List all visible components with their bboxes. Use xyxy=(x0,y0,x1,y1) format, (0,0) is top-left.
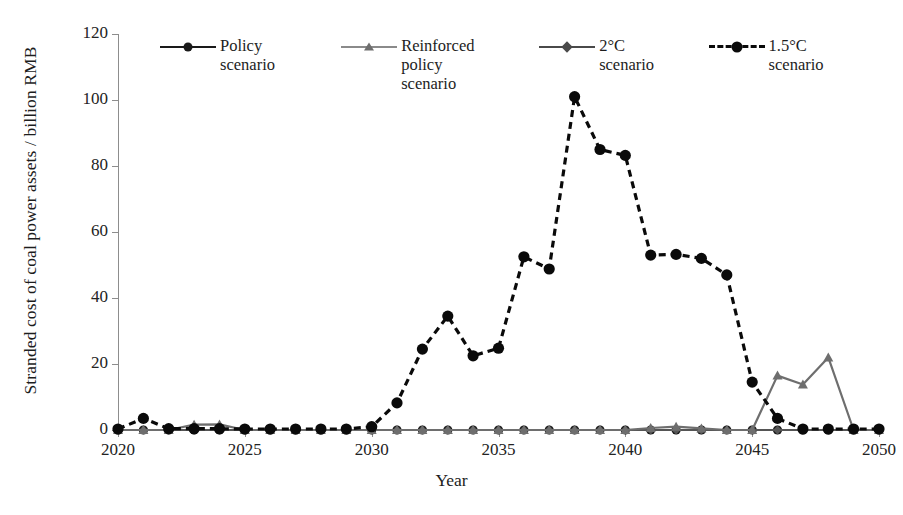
data-point-marker xyxy=(468,350,479,361)
data-point-marker xyxy=(848,423,859,434)
data-point-marker xyxy=(442,311,453,322)
series-reinforced-policy-scenario xyxy=(113,352,884,434)
data-point-marker xyxy=(265,423,276,434)
data-point-marker xyxy=(873,423,884,434)
data-point-marker xyxy=(189,423,200,434)
data-point-marker xyxy=(112,423,123,434)
data-point-marker xyxy=(823,352,833,361)
data-point-marker xyxy=(315,423,326,434)
data-point-marker xyxy=(341,423,352,434)
data-point-marker xyxy=(569,91,580,102)
data-point-marker xyxy=(620,150,631,161)
data-point-marker xyxy=(493,343,504,354)
data-point-marker xyxy=(773,371,783,380)
series-1-5-c-scenario xyxy=(112,91,884,435)
data-point-marker xyxy=(366,421,377,432)
data-point-marker xyxy=(417,344,428,355)
data-point-marker xyxy=(823,423,834,434)
data-point-marker xyxy=(544,263,555,274)
chart-plot-area xyxy=(0,0,903,515)
data-point-marker xyxy=(163,423,174,434)
data-point-marker xyxy=(290,423,301,434)
chart-figure: Stranded cost of coal power assets / bil… xyxy=(0,0,903,515)
data-point-marker xyxy=(721,269,732,280)
data-point-marker xyxy=(696,253,707,264)
data-point-marker xyxy=(391,397,402,408)
data-point-marker xyxy=(239,423,250,434)
data-point-marker xyxy=(518,251,529,262)
data-point-marker xyxy=(594,144,605,155)
data-point-marker xyxy=(138,413,149,424)
data-point-marker xyxy=(671,249,682,260)
data-point-marker xyxy=(214,423,225,434)
data-point-marker xyxy=(645,250,656,261)
data-point-marker xyxy=(772,413,783,424)
data-point-marker xyxy=(747,377,758,388)
data-point-marker xyxy=(797,423,808,434)
